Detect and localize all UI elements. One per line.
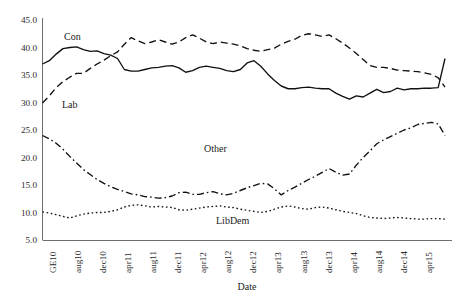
x-tick-label: dec12 [248, 251, 258, 273]
x-tick-label: apr13 [273, 252, 283, 273]
x-tick-label: aug12 [223, 250, 233, 273]
x-tick-label: aug11 [148, 250, 158, 273]
series-label-other: Other [204, 143, 227, 154]
x-tick-label: dec11 [173, 251, 183, 273]
series-line-con [43, 47, 446, 99]
y-tick-label: 30.0 [21, 98, 37, 108]
x-tick-label: dec14 [399, 251, 409, 273]
series-label-con: Con [64, 31, 81, 42]
x-tick-label: apr15 [424, 252, 434, 273]
x-tick-label: aug14 [374, 250, 384, 273]
series-label-libdem: LibDem [216, 215, 250, 226]
x-tick-label: aug13 [299, 250, 309, 273]
y-tick-label: 5.0 [26, 235, 38, 245]
x-tick-label: aug10 [73, 250, 83, 273]
x-tick-label: dec10 [98, 251, 108, 273]
polling-line-chart: 5.010.015.020.025.030.035.040.045.0 ConL… [0, 0, 461, 304]
y-tick-label: 10.0 [21, 208, 37, 218]
x-tick-label: GE10 [48, 251, 58, 273]
series-annotations: ConLabOtherLibDem [62, 31, 250, 226]
chart-container: 5.010.015.020.025.030.035.040.045.0 ConL… [0, 0, 461, 304]
x-tick-label: apr14 [349, 252, 359, 273]
x-tick-label: dec13 [324, 251, 334, 273]
y-tick-label: 15.0 [21, 180, 37, 190]
x-tick-label: apr12 [198, 252, 208, 273]
y-tick-label: 25.0 [21, 125, 37, 135]
series-lines [43, 34, 446, 219]
x-axis-title: Date [238, 281, 257, 292]
y-tick-label: 45.0 [21, 15, 37, 25]
y-tick-label: 40.0 [21, 43, 37, 53]
series-line-other [43, 122, 446, 198]
y-tick-label: 35.0 [21, 70, 37, 80]
x-axis-tick-labels: GE10aug10dec10apr11aug11dec11apr12aug12d… [48, 250, 435, 273]
x-tick-label: apr11 [123, 252, 133, 273]
y-axis-tick-labels: 5.010.015.020.025.030.035.040.045.0 [21, 15, 37, 245]
series-label-lab: Lab [62, 99, 78, 110]
y-tick-label: 20.0 [21, 153, 37, 163]
